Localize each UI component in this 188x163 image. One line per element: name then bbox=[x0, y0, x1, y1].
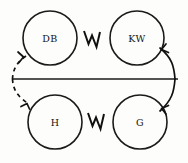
node-g-label: G bbox=[136, 117, 144, 128]
zigzag-connector-h-g[interactable] bbox=[88, 113, 104, 129]
node-kw[interactable]: KW bbox=[110, 11, 164, 65]
node-kw-label: KW bbox=[128, 33, 145, 44]
node-db-label: DB bbox=[42, 33, 57, 44]
lightning-icon bbox=[84, 31, 100, 47]
dashed-arc-lower-left-segment bbox=[13, 79, 30, 104]
block-diagram: DB KW H G bbox=[0, 0, 188, 163]
zigzag-connector-db-kw[interactable] bbox=[84, 31, 100, 47]
node-h-label: H bbox=[51, 117, 60, 128]
diagram-canvas: DB KW H G bbox=[0, 0, 188, 163]
arrowhead-into-h bbox=[21, 104, 30, 110]
arrowhead-into-db bbox=[18, 52, 24, 63]
arc-connector-db-h[interactable] bbox=[13, 52, 30, 109]
node-g[interactable]: G bbox=[113, 95, 167, 149]
node-db[interactable]: DB bbox=[23, 11, 77, 65]
node-h[interactable]: H bbox=[28, 95, 82, 149]
dashed-arc-upper-left-segment bbox=[13, 56, 27, 79]
lightning-icon bbox=[88, 113, 104, 129]
